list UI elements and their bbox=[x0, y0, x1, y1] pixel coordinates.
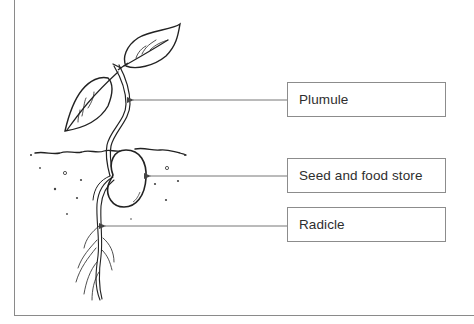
seed-and-food-store bbox=[108, 150, 146, 207]
label-seed-and-food-store: Seed and food store bbox=[287, 158, 446, 193]
label-seed-text: Seed and food store bbox=[299, 168, 423, 183]
label-radicle: Radicle bbox=[287, 207, 446, 242]
upper-leaf bbox=[124, 24, 180, 68]
lower-leaf bbox=[65, 72, 118, 131]
label-plumule: Plumule bbox=[287, 82, 446, 117]
label-radicle-text: Radicle bbox=[299, 217, 345, 232]
soil-surface bbox=[30, 148, 186, 156]
label-plumule-text: Plumule bbox=[299, 92, 348, 107]
